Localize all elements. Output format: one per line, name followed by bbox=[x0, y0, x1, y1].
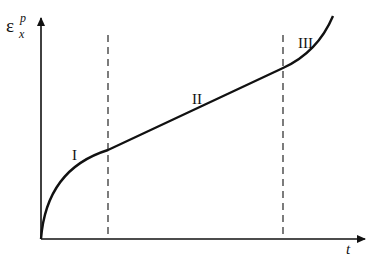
y-axis-label-superscript: p bbox=[19, 11, 26, 25]
creep-curve bbox=[41, 16, 333, 239]
stage-label-2: II bbox=[192, 91, 202, 107]
creep-curve-diagram: ε p x t I II III bbox=[0, 0, 387, 265]
stage-label-1: I bbox=[72, 147, 77, 163]
x-axis-label: t bbox=[346, 241, 351, 257]
stage-label-3: III bbox=[298, 35, 313, 51]
y-axis-label-subscript: x bbox=[18, 27, 25, 41]
y-axis-label-symbol: ε bbox=[6, 15, 14, 36]
